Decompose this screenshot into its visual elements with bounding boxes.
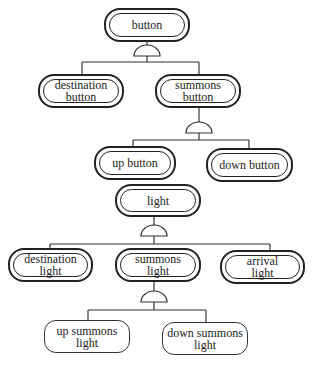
node-light: light — [115, 184, 201, 217]
node-label: up summons light — [56, 325, 117, 349]
node-destination-button: destination button — [38, 74, 124, 108]
connector-lines — [0, 0, 313, 365]
and-gate-icon — [186, 122, 212, 133]
node-label: arrival light — [247, 255, 278, 279]
node-down-summons-light: down summons light — [162, 322, 248, 355]
node-label: up button — [112, 157, 158, 169]
node-label: button — [132, 19, 163, 31]
node-destination-light: destination light — [8, 248, 93, 282]
node-label: light — [147, 195, 169, 207]
and-gate-icon — [134, 45, 160, 56]
node-down-button: down button — [206, 148, 293, 182]
node-arrival-light: arrival light — [220, 250, 305, 284]
node-up-summons-light: up summons light — [44, 320, 130, 353]
node-label: down summons light — [167, 327, 243, 351]
node-label: destination button — [55, 79, 108, 103]
node-label: summons light — [135, 253, 181, 277]
node-label: summons button — [175, 79, 221, 103]
node-summons-light: summons light — [115, 248, 201, 282]
node-label: destination light — [24, 253, 77, 277]
node-label: down button — [219, 159, 279, 171]
node-summons-button: summons button — [155, 74, 241, 108]
and-gate-icon — [141, 291, 167, 302]
node-button: button — [104, 8, 190, 42]
and-gate-icon — [141, 225, 167, 236]
node-up-button: up button — [94, 146, 176, 180]
